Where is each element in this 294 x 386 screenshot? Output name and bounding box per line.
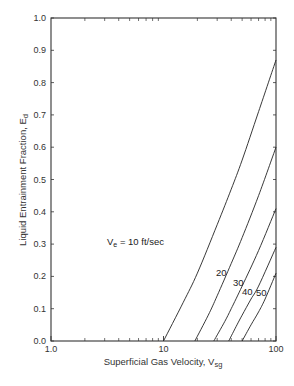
y-tick-label: 0.9 <box>33 45 46 55</box>
y-tick-label: 0.4 <box>33 207 46 217</box>
label-ve-10: Ve = 10 ft/sec <box>107 236 164 248</box>
y-tick-label: 0.6 <box>33 142 46 152</box>
x-axis-title: Superficial Gas Velocity, Vsg <box>104 356 223 369</box>
y-tick-label: 0.7 <box>33 110 46 120</box>
y-tick-label: 0.1 <box>33 304 46 314</box>
x-axis-ticks: 1.010100 <box>45 18 284 354</box>
curve-ve-50 <box>242 273 276 341</box>
entrainment-chart: 0.00.10.20.30.40.50.60.70.80.91.0 1.0101… <box>0 0 294 386</box>
label-ve-20: 20 <box>216 267 227 278</box>
y-tick-label: 1.0 <box>33 13 46 23</box>
curve-labels: Ve = 10 ft/sec20304050 <box>107 236 267 298</box>
y-tick-label: 0.5 <box>33 175 46 185</box>
x-tick-label: 100 <box>268 344 283 354</box>
label-ve-50: 50 <box>256 287 267 298</box>
curve-ve-20 <box>195 147 276 341</box>
curves <box>164 60 277 341</box>
y-tick-label: 0.2 <box>33 271 46 281</box>
curve-ve-10 <box>164 60 277 341</box>
label-ve-40: 40 <box>242 286 253 297</box>
y-tick-label: 0.3 <box>33 239 46 249</box>
y-axis-ticks: 0.00.10.20.30.40.50.60.70.80.91.0 <box>33 13 276 346</box>
x-tick-label: 1.0 <box>45 344 58 354</box>
y-tick-label: 0.8 <box>33 78 46 88</box>
y-axis-title: Liquid Entrainment Fraction, Ed <box>17 114 30 246</box>
x-tick-label: 10 <box>158 344 168 354</box>
